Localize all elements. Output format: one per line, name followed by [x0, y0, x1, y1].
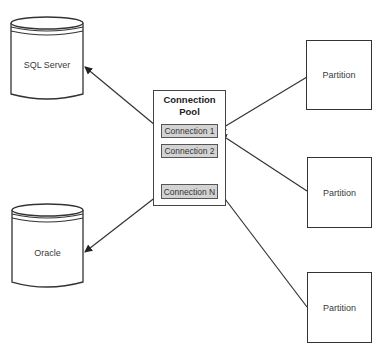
partition-3: Partition	[307, 272, 372, 343]
partition-1-label: Partition	[322, 70, 355, 80]
pool-title: Connection Pool	[153, 94, 226, 118]
database-cylinder-oracle	[12, 204, 83, 287]
partition-1: Partition	[306, 40, 372, 110]
pool-title-line2: Pool	[153, 106, 226, 118]
edge-connN-to-oracle	[85, 193, 161, 252]
partition-2-label: Partition	[323, 188, 356, 198]
connection-2: Connection 2	[161, 144, 218, 158]
database-label-oracle: Oracle	[12, 248, 83, 258]
edge-partition3-to-connN	[219, 191, 307, 307]
connection-n: Connection N	[161, 184, 218, 199]
pool-title-line1: Connection	[153, 94, 226, 106]
database-label-sql-server: SQL Server	[11, 60, 83, 70]
partition-2: Partition	[307, 157, 372, 228]
edge-partition2-to-conn1	[220, 134, 307, 191]
edge-partition1-to-conn1	[219, 77, 307, 130]
database-cylinder-sql-server	[11, 17, 83, 99]
connection-1: Connection 1	[161, 124, 218, 138]
edge-conn1-to-sqlserver	[85, 67, 161, 130]
partition-3-label: Partition	[323, 303, 356, 313]
connection-pool-diagram: SQL Server Oracle Connection Pool Connec…	[0, 0, 386, 357]
